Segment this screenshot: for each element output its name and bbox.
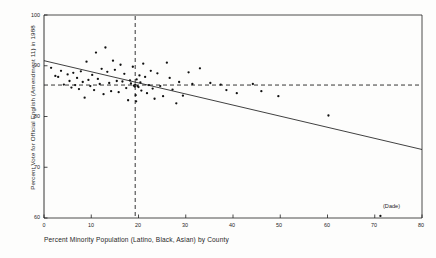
plot-canvas <box>0 0 436 258</box>
reference-lines <box>44 16 422 218</box>
regression-line <box>44 61 422 150</box>
data-points <box>50 46 382 217</box>
scatter-plot-figure: Percent Vote for Official English (Amend… <box>0 0 436 258</box>
axis-ticks <box>44 15 422 218</box>
axis-frame <box>44 15 422 218</box>
